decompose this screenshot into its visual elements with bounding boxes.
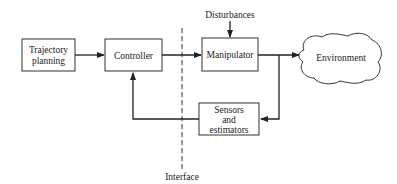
- sensors-estimators-block: Sensors and estimators: [199, 103, 259, 135]
- sensors-label-line2: and: [222, 115, 236, 125]
- environment-label: Environment: [316, 53, 366, 63]
- manipulator-block: Manipulator: [202, 38, 258, 71]
- trajectory-label-line2: planning: [32, 56, 65, 66]
- interface-label: Interface: [165, 172, 199, 182]
- trajectory-planning-block: Trajectory planning: [22, 39, 75, 71]
- controller-label: Controller: [114, 51, 154, 61]
- environment-cloud: Environment: [299, 33, 381, 84]
- arrow-sensors-to-controller: [133, 73, 199, 119]
- controller-block: Controller: [105, 39, 162, 71]
- arrow-to-sensors: [261, 55, 279, 119]
- manipulator-label: Manipulator: [207, 50, 255, 60]
- sensors-label-line1: Sensors: [214, 105, 244, 115]
- trajectory-label-line1: Trajectory: [29, 45, 68, 55]
- sensors-label-line3: estimators: [209, 125, 248, 135]
- disturbances-label: Disturbances: [205, 10, 255, 20]
- block-diagram: Interface Trajectory planning Controller…: [0, 0, 397, 184]
